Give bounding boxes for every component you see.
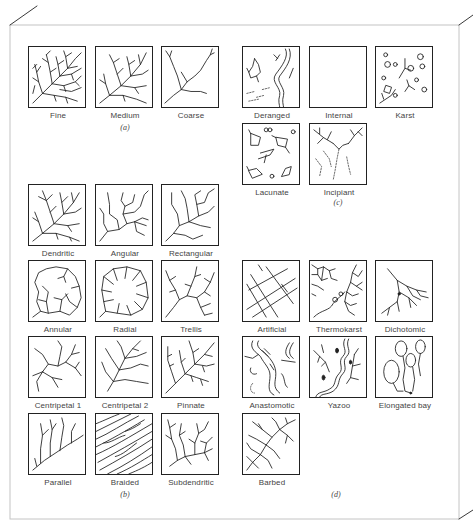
label-subdendritic: Subdendritic	[149, 478, 233, 487]
drainage-dichotomic-diagram	[375, 260, 433, 322]
drainage-subdendritic-diagram	[161, 413, 219, 475]
drainage-barbed-diagram	[242, 413, 300, 475]
drainage-anastomotic-diagram	[242, 336, 300, 398]
label-karst: Karst	[363, 111, 447, 120]
drainage-trellis-diagram	[161, 260, 219, 322]
drainage-centripetal-2-diagram	[95, 336, 153, 398]
group-label-c: (c)	[323, 198, 353, 207]
drainage-fine-diagram	[28, 46, 86, 108]
drainage-medium-diagram	[95, 46, 153, 108]
label-trellis: Trellis	[149, 325, 233, 334]
drainage-coarse-diagram	[161, 46, 219, 108]
drainage-artificial-diagram	[242, 260, 300, 322]
label-barbed: Barbed	[230, 478, 314, 487]
drainage-thermokarst-diagram	[309, 260, 367, 322]
drainage-annular-diagram	[28, 260, 86, 322]
drainage-lacunate-diagram	[242, 123, 300, 185]
drainage-elongated-bay-diagram	[375, 336, 433, 398]
label-rectangular: Rectangular	[149, 249, 233, 258]
drainage-parallel-diagram	[28, 413, 86, 475]
drainage-radial-diagram	[95, 260, 153, 322]
group-label-a: (a)	[110, 123, 140, 132]
drainage-dendritic-diagram	[28, 184, 86, 246]
drainage-braided-diagram	[95, 413, 153, 475]
drainage-centripetal-1-diagram	[28, 336, 86, 398]
drainage-pinnate-diagram	[161, 336, 219, 398]
group-label-b: (b)	[110, 490, 140, 499]
drainage-angular-diagram	[95, 184, 153, 246]
drainage-internal-diagram	[309, 46, 367, 108]
drainage-yazoo-diagram	[309, 336, 367, 398]
drainage-deranged-diagram	[242, 46, 300, 108]
label-pinnate: Pinnate	[149, 401, 233, 410]
label-dichotomic: Dichotomic	[363, 325, 447, 334]
group-label-d: (d)	[321, 490, 351, 499]
drainage-rectangular-diagram	[161, 184, 219, 246]
drainage-karst-diagram	[375, 46, 433, 108]
label-incipiant: Incipiant	[297, 188, 381, 197]
label-coarse: Coarse	[149, 111, 233, 120]
drainage-incipiant-diagram	[309, 123, 367, 185]
label-elongated-bay: Elongated bay	[363, 401, 447, 410]
